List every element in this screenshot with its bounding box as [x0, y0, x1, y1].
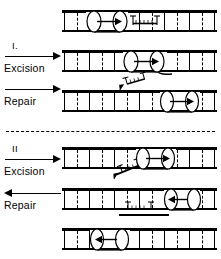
repair-arrow-I [4, 84, 62, 95]
dna-strand-bottom [62, 248, 217, 251]
section-numeral-II: II [4, 144, 64, 154]
section-numeral-I: I. [4, 41, 64, 51]
dimer-bond-hatching [133, 20, 157, 24]
section-divider [6, 131, 215, 132]
step-repair-II: Repair [4, 188, 64, 211]
repair-arrow-II [4, 188, 62, 199]
step-excision-II: II Excision [4, 144, 64, 177]
step-repair-I: Repair [4, 84, 64, 107]
enzyme-cylinder [158, 88, 204, 115]
excision-arrow-II [4, 154, 62, 165]
enzyme-cylinder [88, 226, 134, 253]
excision-label-I: Excision [4, 62, 64, 74]
thymine-dimer [127, 15, 163, 29]
figure-canvas: I. Excision [0, 0, 221, 259]
excision-label-II: Excision [4, 165, 64, 177]
dna-duplex-row [62, 228, 217, 250]
enzyme-cylinder [121, 48, 169, 75]
enzyme-cylinder [84, 8, 132, 35]
enzyme-cylinder [162, 186, 206, 213]
excision-arrow-I [4, 51, 62, 62]
repair-label-II: Repair [4, 199, 64, 211]
enzyme-cylinder [134, 145, 180, 172]
dna-base-pairs [62, 231, 217, 248]
step-excision-I: I. Excision [4, 41, 64, 74]
repair-label-I: Repair [4, 95, 64, 107]
